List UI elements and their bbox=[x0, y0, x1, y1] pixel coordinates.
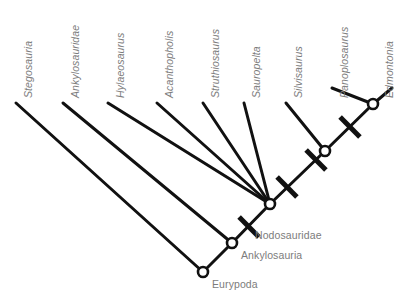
internal-node-marker bbox=[198, 267, 208, 277]
cladogram-svg bbox=[0, 0, 411, 302]
branch-line bbox=[108, 103, 270, 204]
branch-line bbox=[286, 103, 325, 151]
branch-lines-group bbox=[16, 88, 392, 272]
internal-node-marker bbox=[368, 99, 378, 109]
internal-node-marker bbox=[265, 199, 275, 209]
cladogram-figure: StegosauriaAnkylosauridaeHylaeosaurusAca… bbox=[0, 0, 411, 302]
branch-line bbox=[232, 204, 270, 243]
branch-line bbox=[16, 103, 203, 272]
internal-node-marker bbox=[227, 238, 237, 248]
internal-node-marker bbox=[320, 146, 330, 156]
branch-line bbox=[332, 88, 373, 104]
